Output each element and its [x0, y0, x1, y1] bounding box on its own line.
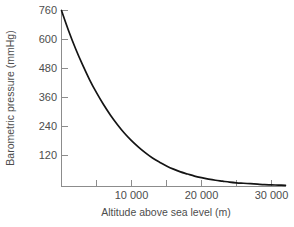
x-tick-label-20000: 20 000 [185, 189, 219, 201]
y-axis-ticks [62, 11, 68, 156]
x-tick-label-30000: 30 000 [255, 189, 289, 201]
y-tick-label-240: 240 [39, 120, 57, 132]
x-axis-tick-labels: 10 000 20 000 30 000 [115, 189, 289, 201]
pressure-curve [62, 11, 286, 186]
chart-canvas: 760 600 480 360 240 120 10 000 20 000 30… [0, 0, 294, 227]
y-tick-label-600: 600 [39, 33, 57, 45]
x-tick-label-10000: 10 000 [115, 189, 149, 201]
y-tick-label-120: 120 [39, 149, 57, 161]
y-axis-title: Barometric pressure (mmHg) [4, 30, 16, 165]
x-axis-title: Altitude above sea level (m) [101, 206, 231, 218]
y-tick-label-760: 760 [39, 4, 57, 16]
y-axis-tick-labels: 760 600 480 360 240 120 [39, 4, 57, 161]
y-tick-label-480: 480 [39, 62, 57, 74]
y-tick-label-360: 360 [39, 91, 57, 103]
barometric-pressure-chart: 760 600 480 360 240 120 10 000 20 000 30… [0, 0, 294, 227]
